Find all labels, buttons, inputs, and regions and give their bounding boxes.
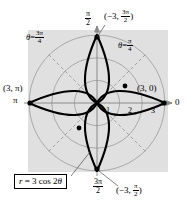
annotation-neg3-3pi-over-2: (−3, 3π2) — [104, 9, 133, 24]
annotation-3-0: (3, 0) — [137, 84, 157, 93]
axis-arrow-up — [95, 26, 100, 32]
equation-equals: = — [25, 176, 30, 186]
angle-label-pi-over-4: θ=π4 — [118, 38, 133, 53]
fraction-3pi-over-4: 3π4 — [35, 30, 44, 45]
marker-3-pi — [27, 100, 32, 105]
radial-tick-2: 2 — [128, 106, 132, 115]
axis-label-pi-over-2: π2 — [85, 10, 91, 27]
paren-close: ) — [154, 83, 157, 93]
annotation-neg3-pi-over-2: (−3, π2) — [116, 183, 142, 198]
denominator-2: 2 — [121, 17, 130, 24]
equation-box: r = 3 cos 2θ — [14, 174, 67, 189]
denominator-2: 2 — [85, 19, 91, 27]
equation-expression: 3 cos 2 — [32, 176, 58, 186]
angle-label-3pi-over-4: θ=3π4 — [26, 30, 44, 45]
axis-label-3pi-over-2: 3π2 — [93, 178, 103, 195]
marker-upper-right-petal — [123, 84, 128, 89]
fraction-3pi-over-2: 3π2 — [121, 9, 130, 24]
equation-r: r — [19, 176, 23, 186]
denominator-4: 4 — [35, 38, 44, 45]
radial-tick-1: 1 — [106, 106, 110, 115]
marker-3-0 — [161, 100, 166, 105]
axis-label-zero: 0 — [175, 98, 180, 107]
annotation-3-pi: (3, π) — [3, 84, 23, 93]
paren-close: ) — [20, 83, 23, 93]
denominator-4: 4 — [127, 46, 133, 53]
axis-label-pi: π — [13, 96, 18, 105]
marker-neg3-pi-over-2 — [94, 166, 99, 171]
paren-close: ) — [139, 185, 142, 195]
fraction-pi-over-2: π2 — [85, 10, 91, 27]
radial-tick-3: 3 — [151, 106, 155, 115]
radius-value: 3, — [140, 83, 149, 93]
polar-graph-figure: θ=3π4 θ=π4 π2 (−3, 3π2) (3, π) π (3, 0) … — [0, 0, 190, 206]
marker-lower-left-petal — [77, 126, 82, 131]
paren-close: ) — [130, 11, 133, 21]
fraction-pi-over-4: π4 — [127, 38, 133, 53]
denominator-2: 2 — [93, 187, 103, 195]
fraction-3pi-over-2: 3π2 — [93, 178, 103, 195]
radius-value: −3, — [119, 185, 133, 195]
axis-arrow-right — [166, 101, 172, 106]
radius-value: 3, — [6, 83, 15, 93]
radius-value: −3, — [107, 11, 121, 21]
equation-theta: θ — [58, 176, 62, 186]
